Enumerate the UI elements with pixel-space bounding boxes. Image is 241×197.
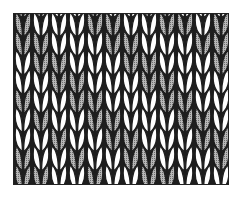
knit-stitch — [195, 184, 211, 185]
knit-stitch — [123, 184, 139, 185]
knit-stitch-pattern — [14, 14, 229, 185]
knit-stitch — [105, 184, 121, 185]
knit-stitch — [87, 184, 103, 185]
knit-stitch — [159, 184, 175, 185]
knit-stitch — [141, 184, 157, 185]
knit-stitch — [15, 184, 31, 185]
knit-stitch — [33, 184, 49, 185]
knit-stitch — [177, 184, 193, 185]
knitting-swatch-frame — [13, 13, 229, 185]
knit-stitch — [51, 184, 67, 185]
knit-stitch — [69, 184, 85, 185]
knit-stitch — [213, 184, 229, 185]
